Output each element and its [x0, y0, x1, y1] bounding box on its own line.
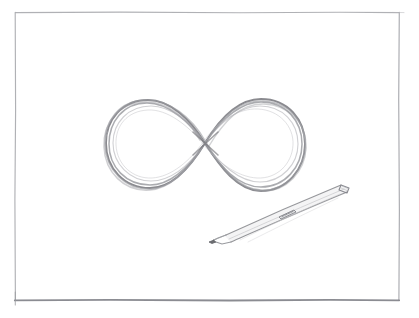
frame-edge-bottom: [15, 300, 399, 301]
frame-edge-top: [16, 12, 400, 13]
pencil-sketch-artwork: [0, 0, 419, 318]
frame-edge-left: [15, 12, 16, 300]
sketch-canvas: Infinity symbol pencil sketch with pen A…: [0, 0, 419, 318]
paper-background: [0, 0, 419, 318]
frame-edge-right: [399, 12, 400, 300]
